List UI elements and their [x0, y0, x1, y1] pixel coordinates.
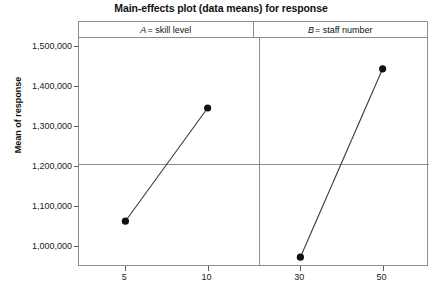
y-tick-label: 1,000,000: [0, 241, 72, 251]
y-tick-label: 1,100,000: [0, 201, 72, 211]
x-tick-mark: [125, 266, 126, 271]
data-point: [379, 65, 386, 72]
x-tick-mark: [383, 266, 384, 271]
x-tick-label: 10: [202, 272, 212, 282]
panel-b-factor-letter: B: [308, 25, 315, 35]
x-tick-label: 30: [294, 272, 304, 282]
panel-a-header-text: = skill level: [147, 25, 191, 35]
y-tick-label: 1,300,000: [0, 121, 72, 131]
x-tick-mark: [300, 266, 301, 271]
plot-area: [78, 38, 428, 266]
series-line-b: [300, 69, 382, 257]
panel-header-a: A = skill level: [79, 22, 253, 37]
x-axis-tick-labels: 5103050: [78, 272, 428, 286]
panel-a-factor-letter: A: [140, 25, 147, 35]
data-point: [297, 254, 304, 261]
data-series-layer: [79, 38, 429, 266]
y-axis-tick-labels: 1,000,0001,100,0001,200,0001,300,0001,40…: [0, 38, 72, 266]
data-point: [122, 218, 129, 225]
panel-header-b: B = staff number: [253, 22, 428, 37]
x-tick-label: 5: [122, 272, 127, 282]
y-tick-label: 1,500,000: [0, 41, 72, 51]
series-line-a: [125, 108, 207, 221]
x-tick-mark: [208, 266, 209, 271]
panel-header-strip: A = skill level B = staff number: [78, 21, 428, 38]
panel-b-header-text: = staff number: [315, 25, 373, 35]
y-tick-label: 1,200,000: [0, 161, 72, 171]
data-point: [204, 104, 211, 111]
main-effects-chart: Main-effects plot (data means) for respo…: [0, 0, 442, 290]
y-tick-label: 1,400,000: [0, 81, 72, 91]
page-title: Main-effects plot (data means) for respo…: [0, 2, 442, 14]
x-tick-label: 50: [377, 272, 387, 282]
